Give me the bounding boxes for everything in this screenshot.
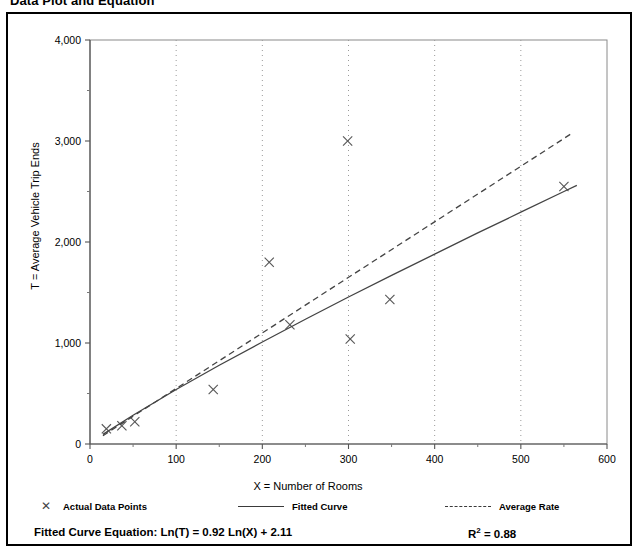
data-point-marker: [343, 136, 352, 145]
data-point-marker: [130, 417, 139, 426]
dashed-line-icon: [445, 500, 491, 512]
series-line-dashed: [103, 133, 573, 436]
r-squared-value: R2 = 0.88: [468, 526, 516, 540]
data-point-marker: [209, 385, 218, 394]
y-tick-label: 3,000: [55, 135, 81, 147]
legend-label-fitted-curve: Fitted Curve: [292, 501, 347, 512]
fitted-curve-equation: Fitted Curve Equation: Ln(T) = 0.92 Ln(X…: [34, 526, 292, 538]
y-axis-title: T = Average Vehicle Trip Ends: [29, 106, 41, 326]
x-tick-label: 200: [254, 453, 272, 465]
data-point-marker: [346, 334, 355, 343]
x-tick-label: 500: [512, 453, 530, 465]
legend-item-actual-data-points: ✕ Actual Data Points: [38, 498, 147, 514]
x-tick-label: 400: [426, 453, 444, 465]
chart-legend: ✕ Actual Data Points Fitted Curve Averag…: [8, 498, 630, 522]
r-squared-suffix: = 0.88: [481, 528, 517, 540]
data-point-marker: [385, 295, 394, 304]
y-tick-label: 4,000: [55, 34, 81, 46]
figure-panel: 01,0002,0003,0004,0000100200300400500600…: [6, 12, 632, 546]
chart-svg: 01,0002,0003,0004,0000100200300400500600: [8, 14, 630, 494]
x-tick-label: 0: [87, 453, 93, 465]
y-tick-label: 1,000: [55, 337, 81, 349]
x-axis-title: X = Number of Rooms: [8, 480, 608, 492]
legend-item-average-rate: Average Rate: [445, 498, 559, 514]
legend-item-fitted-curve: Fitted Curve: [238, 498, 347, 514]
cross-marker-icon: ✕: [38, 500, 56, 512]
page-title: Data Plot and Equation: [10, 0, 154, 8]
y-tick-label: 0: [75, 438, 81, 450]
y-tick-label: 2,000: [55, 236, 81, 248]
chart-plot-area: 01,0002,0003,0004,0000100200300400500600…: [8, 14, 630, 494]
x-tick-label: 300: [340, 453, 358, 465]
data-point-marker: [265, 258, 274, 267]
x-tick-label: 100: [167, 453, 185, 465]
equation-row: Fitted Curve Equation: Ln(T) = 0.92 Ln(X…: [8, 526, 630, 546]
solid-line-icon: [238, 500, 284, 512]
legend-label-actual-data-points: Actual Data Points: [63, 501, 147, 512]
x-tick-label: 600: [598, 453, 616, 465]
legend-label-average-rate: Average Rate: [499, 501, 559, 512]
series-line-solid: [103, 185, 577, 434]
